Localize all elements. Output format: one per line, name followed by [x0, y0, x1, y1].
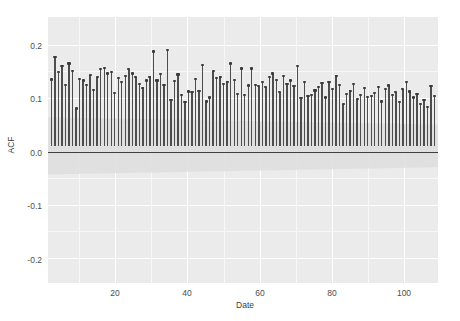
acf-bar [430, 86, 431, 146]
acf-bar [346, 93, 347, 146]
acf-bar [160, 73, 161, 145]
acf-bar-cap [82, 79, 85, 81]
acf-bar-cap [247, 84, 250, 86]
acf-bar [209, 97, 210, 146]
acf-bar [72, 70, 73, 146]
x-tick-label-100: 100 [384, 288, 424, 298]
acf-bar [54, 56, 55, 145]
acf-bar-cap [342, 103, 345, 105]
acf-bar-cap [426, 106, 429, 108]
acf-bar [170, 99, 171, 146]
acf-bar [262, 81, 263, 146]
acf-bar-cap [313, 89, 316, 91]
acf-bar [300, 98, 301, 146]
acf-bar-cap [110, 71, 113, 73]
acf-bar [58, 72, 59, 146]
acf-bar [237, 94, 238, 146]
acf-bar-cap [303, 81, 306, 83]
acf-bar [360, 94, 361, 146]
acf-bar [328, 81, 329, 146]
acf-bar-cap [155, 79, 158, 81]
acf-bar-cap [257, 85, 260, 87]
acf-bar [202, 65, 203, 146]
y-tick-label-0: 0.2 [8, 41, 42, 51]
acf-bar [198, 90, 199, 145]
acf-bar [149, 76, 150, 146]
acf-bar-cap [240, 67, 243, 69]
acf-bar-cap [201, 64, 204, 66]
acf-bar [156, 80, 157, 146]
acf-bar-cap [292, 85, 295, 87]
acf-bar [265, 87, 266, 146]
acf-bar [367, 97, 368, 146]
acf-bar [413, 97, 414, 146]
acf-bar-cap [145, 79, 148, 81]
acf-bar-cap [226, 81, 229, 83]
acf-bar [353, 84, 354, 146]
acf-bar [118, 77, 119, 146]
acf-bar [195, 78, 196, 145]
acf-bar [184, 101, 185, 145]
acf-bar [125, 75, 126, 146]
acf-bar-cap [429, 85, 432, 87]
acf-bar-cap [183, 101, 186, 103]
acf-bar-cap [299, 97, 302, 99]
acf-bar [82, 80, 83, 146]
acf-bar-cap [296, 65, 299, 67]
acf-bar-cap [366, 96, 369, 98]
acf-bar [332, 89, 333, 146]
x-tick-label-80: 80 [312, 288, 352, 298]
acf-bar-cap [99, 68, 102, 70]
acf-bar-cap [194, 78, 197, 80]
acf-bar [226, 81, 227, 146]
acf-bar [371, 95, 372, 145]
acf-bar [311, 94, 312, 146]
y-axis-title: ACF [6, 125, 16, 165]
acf-bar [269, 77, 270, 146]
acf-bar-cap [131, 72, 134, 74]
acf-bar-cap [71, 70, 74, 72]
acf-bar [167, 50, 168, 146]
acf-bar-cap [190, 91, 193, 93]
acf-bar-cap [50, 78, 53, 80]
acf-bar-cap [285, 83, 288, 85]
acf-bar-cap [363, 87, 366, 89]
acf-bar-cap [317, 86, 320, 88]
acf-bar [325, 97, 326, 146]
acf-bar-cap [197, 90, 200, 92]
acf-bar-cap [320, 82, 323, 84]
acf-bar [434, 95, 435, 145]
acf-bar [374, 92, 375, 146]
acf-bar-cap [208, 96, 211, 98]
x-tick-label-40: 40 [167, 288, 207, 298]
acf-bar [356, 99, 357, 146]
acf-bar-cap [250, 67, 253, 69]
acf-bar [409, 91, 410, 146]
y-tick-label-1: 0.1 [8, 94, 42, 104]
acf-bar [290, 80, 291, 146]
acf-bar [79, 78, 80, 145]
acf-bar [191, 92, 192, 146]
acf-bar-cap [359, 94, 362, 96]
acf-chart-figure: 0.2 0.1 0.0 -0.1 -0.2 ACF [0, 0, 460, 321]
acf-bar-cap [85, 84, 88, 86]
acf-bar [86, 84, 87, 145]
acf-bar [177, 74, 178, 146]
acf-bar [181, 95, 182, 146]
acf-bar-cap [152, 50, 155, 52]
acf-bar-cap [53, 56, 56, 58]
acf-bar [205, 101, 206, 146]
acf-bar-cap [278, 91, 281, 93]
acf-bar-cap [380, 100, 383, 102]
acf-bar [378, 87, 379, 146]
acf-bar [223, 83, 224, 146]
acf-bar [219, 76, 220, 146]
acf-bar-cap [173, 80, 176, 82]
acf-bar [244, 94, 245, 146]
acf-bar-cap [289, 79, 292, 81]
acf-bar-cap [124, 75, 127, 77]
acf-bar-cap [64, 84, 67, 86]
plot-area [48, 17, 438, 283]
acf-bar [142, 87, 143, 146]
acf-bar [304, 82, 305, 146]
